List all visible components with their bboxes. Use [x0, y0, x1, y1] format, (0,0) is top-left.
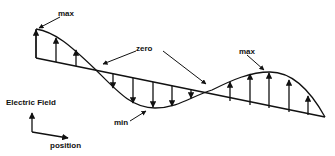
- min-pointer-arrow-icon: [130, 111, 146, 121]
- label-position: position: [50, 141, 81, 150]
- max-right-pointer-arrow-icon: [247, 55, 264, 70]
- axis-legend: Electric Field position: [6, 98, 81, 150]
- zero-left-pointer-arrow-icon: [103, 51, 136, 64]
- position-axis-line: [36, 58, 325, 117]
- label-electric-field: Electric Field: [6, 98, 56, 107]
- label-max-right: max: [239, 47, 256, 56]
- field-vectors-up-right: [230, 73, 308, 115]
- max-left-pointer-arrow-icon: [39, 17, 60, 28]
- position-axis-arrow-icon: [32, 132, 68, 138]
- field-vectors-up-left: [36, 30, 76, 66]
- label-max-left: max: [58, 9, 75, 18]
- label-min: min: [114, 118, 128, 127]
- zero-right-pointer-arrow-icon: [163, 51, 206, 84]
- label-zero: zero: [136, 44, 153, 53]
- field-vectors-down: [113, 74, 191, 107]
- electric-field-wave-diagram: max zero max min Electric Field position: [0, 0, 335, 156]
- wave-curve: [36, 29, 325, 117]
